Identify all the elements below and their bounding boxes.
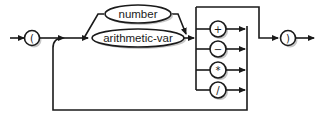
operand-arithmetic-var: arithmetic-var xyxy=(92,29,186,49)
operand-number-label: number xyxy=(119,8,158,20)
operator-divide: / xyxy=(196,82,245,100)
syntax-diagram: ( number arithmetic-var + − xyxy=(0,0,320,121)
open-paren-node: ( xyxy=(25,31,42,48)
exit-path xyxy=(196,7,278,38)
close-paren-node: ) xyxy=(281,31,298,48)
branch-number-out xyxy=(172,14,186,34)
operator-minus-label: − xyxy=(214,44,222,55)
operand-number: number xyxy=(105,5,173,25)
operator-minus: − xyxy=(196,41,245,59)
operator-multiply-label: * xyxy=(216,65,221,76)
operand-arithmetic-var-label: arithmetic-var xyxy=(103,32,173,44)
operator-plus-label: + xyxy=(214,24,222,35)
operator-plus: + xyxy=(196,21,245,39)
close-paren-label: ) xyxy=(286,33,290,44)
open-paren-label: ( xyxy=(30,33,34,44)
operator-multiply: * xyxy=(196,62,245,80)
